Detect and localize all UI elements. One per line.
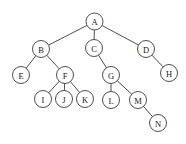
tree-node-a[interactable]: A [86,13,103,30]
node-circle-f[interactable] [57,67,74,84]
node-circle-i[interactable] [35,91,52,108]
node-layer: ABCDEFGHIJKLMN [13,13,178,132]
node-circle-m[interactable] [130,92,147,109]
node-circle-g[interactable] [103,67,120,84]
tree-node-j[interactable]: J [56,91,73,108]
tree-node-g[interactable]: G [103,67,120,84]
node-circle-k[interactable] [77,91,94,108]
tree-edge-d-h [152,55,163,67]
tree-edge-a-b [49,25,87,45]
node-circle-l[interactable] [103,92,120,109]
node-circle-j[interactable] [56,91,73,108]
node-circle-d[interactable] [138,41,155,58]
tree-node-c[interactable]: C [86,40,103,57]
tree-node-e[interactable]: E [13,67,30,84]
tree-node-i[interactable]: I [35,91,52,108]
node-circle-c[interactable] [86,40,103,57]
tree-diagram: ABCDEFGHIJKLMN [0,0,186,144]
tree-edge-b-f [47,55,59,69]
tree-node-n[interactable]: N [150,115,167,132]
node-circle-e[interactable] [13,67,30,84]
tree-edge-f-i [49,81,60,92]
tree-edge-b-e [26,56,36,69]
node-circle-a[interactable] [86,13,103,30]
tree-node-l[interactable]: L [103,92,120,109]
tree-node-m[interactable]: M [130,92,147,109]
tree-edge-a-d [102,26,139,46]
tree-edge-g-m [117,81,132,94]
tree-node-b[interactable]: B [33,41,50,58]
tree-node-k[interactable]: K [77,91,94,108]
tree-node-f[interactable]: F [57,67,74,84]
node-circle-h[interactable] [161,65,178,82]
tree-node-h[interactable]: H [161,65,178,82]
tree-node-d[interactable]: D [138,41,155,58]
node-circle-b[interactable] [33,41,50,58]
tree-edge-f-k [70,82,79,93]
tree-edge-m-n [144,106,153,116]
tree-edge-c-g [99,55,107,68]
node-circle-n[interactable] [150,115,167,132]
